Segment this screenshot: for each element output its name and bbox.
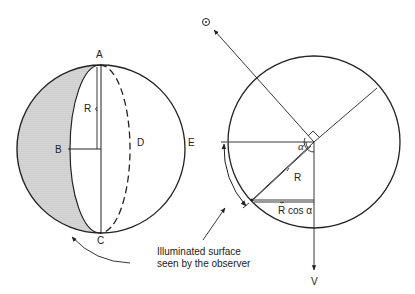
angle-arc xyxy=(306,142,308,148)
right-angle-marker xyxy=(308,131,319,137)
terminator-dashed xyxy=(100,65,130,233)
caption-arrow-right xyxy=(203,208,225,240)
radius-line-inner xyxy=(254,146,311,199)
perpendicular-line xyxy=(314,88,377,142)
label-d: D xyxy=(137,137,144,148)
left-sphere: A C B D E R xyxy=(16,49,195,246)
label-v: V xyxy=(311,276,318,287)
diagram-canvas: A C B D E R Illuminated surface seen by … xyxy=(0,0,415,294)
label-alpha: α xyxy=(298,140,304,152)
label-c: C xyxy=(97,235,104,246)
label-a: A xyxy=(96,49,103,60)
radius-line-outer xyxy=(252,142,314,200)
caption-line-2: seen by the observer xyxy=(157,258,251,269)
label-r-left: R xyxy=(84,103,91,114)
label-e: E xyxy=(188,137,195,148)
label-b: B xyxy=(55,144,62,155)
label-r-cos-alpha: R cos α xyxy=(278,205,312,216)
label-r-right: R xyxy=(294,172,301,183)
caption-line-1: Illuminated surface xyxy=(157,246,241,257)
